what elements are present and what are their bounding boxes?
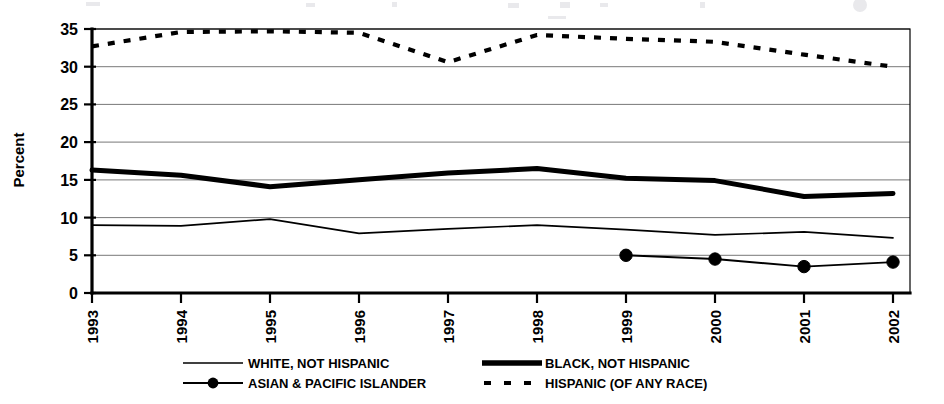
gridlines (92, 29, 910, 255)
data-point-marker (709, 253, 721, 265)
y-axis-title: Percent (10, 132, 27, 187)
x-tick-label: 1998 (529, 310, 546, 343)
y-tick-labels: 35 30 25 20 15 10 5 0 (60, 21, 78, 302)
x-tick-label: 2002 (885, 310, 902, 343)
data-point-marker (620, 249, 632, 261)
y-tick-marks (84, 29, 96, 293)
legend-label-white: WHITE, NOT HISPANIC (248, 356, 390, 371)
legend-label-asian: ASIAN & PACIFIC ISLANDER (248, 376, 427, 391)
data-point-marker (798, 260, 810, 272)
x-tick-label: 2001 (796, 310, 813, 343)
y-tick-label: 10 (60, 210, 78, 227)
series-layer (92, 31, 899, 273)
x-tick-labels: 1993 1994 1995 1996 1997 1998 1999 2000 … (84, 309, 902, 343)
series-line-white (92, 219, 893, 238)
y-tick-label: 20 (60, 134, 78, 151)
legend-label-hispanic: HISPANIC (OF ANY RACE) (545, 376, 707, 391)
chart-legend: WHITE, NOT HISPANIC BLACK, NOT HISPANIC … (183, 356, 707, 391)
series-line-black (92, 169, 893, 197)
x-tick-label: 1993 (84, 310, 101, 343)
y-tick-label: 15 (60, 172, 78, 189)
x-tick-label: 1999 (618, 310, 635, 343)
y-tick-label: 30 (60, 59, 78, 76)
scan-artifacts (86, 0, 867, 19)
x-tick-label: 2000 (707, 310, 724, 343)
y-tick-label: 0 (69, 285, 78, 302)
chart-canvas: Percent 35 30 (0, 0, 944, 404)
data-point-marker (887, 256, 899, 268)
x-tick-label: 1997 (440, 310, 457, 343)
line-chart: Percent 35 30 (0, 0, 944, 404)
x-tick-label: 1995 (262, 310, 279, 343)
y-tick-label: 25 (60, 96, 78, 113)
legend-marker-dot-icon (208, 378, 219, 389)
x-tick-label: 1994 (173, 309, 190, 343)
legend-label-black: BLACK, NOT HISPANIC (545, 356, 691, 371)
series-markers-asian (620, 249, 899, 273)
series-line-asian (626, 255, 893, 266)
plot-area-frame (92, 29, 910, 293)
series-line-hispanic (92, 31, 893, 66)
y-tick-label: 5 (69, 247, 78, 264)
x-tick-label: 1996 (351, 310, 368, 343)
y-tick-label: 35 (60, 21, 78, 38)
